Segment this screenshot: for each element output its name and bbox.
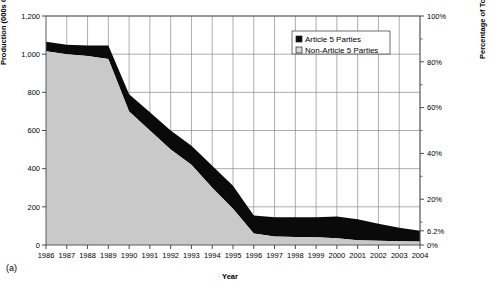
legend-swatch <box>296 36 302 42</box>
svg-text:1987: 1987 <box>58 251 75 260</box>
svg-text:1,200: 1,200 <box>21 12 40 21</box>
svg-text:2002: 2002 <box>370 251 387 260</box>
y-axis-left-title: Production (000s ODP tonnes) <box>0 0 8 76</box>
svg-text:1994: 1994 <box>204 251 221 260</box>
svg-text:200: 200 <box>27 203 40 212</box>
svg-text:1992: 1992 <box>162 251 179 260</box>
svg-text:1998: 1998 <box>287 251 304 260</box>
svg-text:2004: 2004 <box>412 251 429 260</box>
stacked-area-chart: 02004006008001,0001,200 0%6.2%20%40%60%8… <box>0 0 500 288</box>
figure-panel: 02004006008001,0001,200 0%6.2%20%40%60%8… <box>0 0 500 288</box>
svg-text:1996: 1996 <box>245 251 262 260</box>
svg-text:1999: 1999 <box>308 251 325 260</box>
y-axis-left-ticks <box>42 16 46 245</box>
svg-text:1988: 1988 <box>79 251 96 260</box>
y-axis-right-labels: 0%6.2%20%40%60%80%100% <box>427 12 447 250</box>
svg-text:1993: 1993 <box>183 251 200 260</box>
svg-text:0%: 0% <box>427 241 438 250</box>
svg-text:0: 0 <box>36 241 40 250</box>
svg-text:800: 800 <box>27 88 40 97</box>
svg-text:1986: 1986 <box>38 251 55 260</box>
x-axis-labels: 1986198719881989199019911992199319941995… <box>38 251 429 260</box>
x-axis-ticks <box>46 245 420 249</box>
svg-text:1,000: 1,000 <box>21 50 40 59</box>
svg-text:80%: 80% <box>427 58 442 67</box>
y-axis-left-labels: 02004006008001,0001,200 <box>21 12 40 250</box>
svg-text:1990: 1990 <box>121 251 138 260</box>
legend-label: Article 5 Parties <box>305 35 361 44</box>
svg-text:2000: 2000 <box>329 251 346 260</box>
legend-swatch <box>296 47 302 53</box>
chart-legend: Article 5 PartiesNon-Article 5 Parties <box>292 31 390 55</box>
svg-text:400: 400 <box>27 164 40 173</box>
svg-text:1989: 1989 <box>100 251 117 260</box>
legend-label: Non-Article 5 Parties <box>305 46 378 55</box>
svg-text:40%: 40% <box>427 149 442 158</box>
svg-text:60%: 60% <box>427 103 442 112</box>
svg-text:20%: 20% <box>427 195 442 204</box>
y-axis-right-title: Percentage of Total Baseline <box>478 0 487 78</box>
svg-text:1997: 1997 <box>266 251 283 260</box>
y-axis-right-ticks <box>420 16 424 245</box>
svg-text:600: 600 <box>27 126 40 135</box>
svg-text:1995: 1995 <box>225 251 242 260</box>
svg-text:2003: 2003 <box>391 251 408 260</box>
svg-text:6.2%: 6.2% <box>427 227 444 236</box>
svg-text:2001: 2001 <box>349 251 366 260</box>
svg-text:100%: 100% <box>427 12 447 21</box>
panel-label: (a) <box>6 263 17 273</box>
svg-text:1991: 1991 <box>142 251 159 260</box>
x-axis-title: Year <box>0 272 460 281</box>
